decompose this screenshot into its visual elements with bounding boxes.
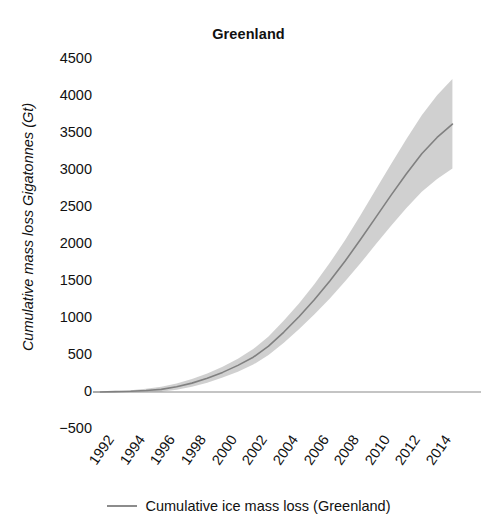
x-tick-label: 2008 [326,432,362,474]
x-axis-tick-labels: 1992199419961998200020022004200620082010… [0,0,497,531]
chart-figure: Greenland Cumulative mass loss Gigatonne… [0,0,497,531]
x-tick-label: 2014 [418,432,454,474]
legend-label: Cumulative ice mass loss (Greenland) [146,498,391,514]
x-tick-label: 1996 [142,432,178,474]
chart-legend: Cumulative ice mass loss (Greenland) [0,498,497,514]
x-tick-label: 2012 [387,432,423,474]
x-tick-label: 1998 [173,432,209,474]
x-tick-label: 2006 [296,432,332,474]
legend-line-swatch [107,505,137,507]
x-tick-label: 1994 [112,432,148,474]
x-tick-label: 2000 [204,432,240,474]
x-tick-label: 2004 [265,432,301,474]
x-tick-label: 1992 [81,432,117,474]
x-tick-label: 2002 [234,432,270,474]
x-tick-label: 2010 [357,432,393,474]
